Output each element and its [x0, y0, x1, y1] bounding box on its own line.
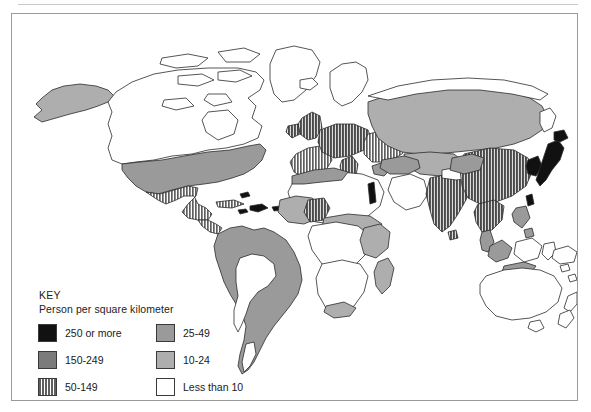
legend-item: 25-49	[156, 324, 243, 342]
region-ireland	[286, 124, 300, 138]
page-canvas: KEY Person per square kilometer 250 or m…	[0, 0, 591, 412]
region-arabia	[388, 174, 428, 210]
legend-columns: 250 or more 150-249 50-149	[38, 324, 256, 396]
region-iceland	[300, 78, 318, 90]
legend-label: 25-49	[183, 327, 210, 339]
legend-item: 150-249	[38, 351, 142, 369]
region-cuba	[216, 200, 244, 208]
legend-item: 250 or more	[38, 324, 142, 342]
region-scandinavia	[330, 62, 368, 106]
legend-swatch-250-or-more	[38, 324, 57, 342]
legend-swatch-150-249	[38, 351, 57, 369]
region-indochina	[474, 200, 504, 232]
region-philippines	[524, 228, 534, 238]
legend-label: 10-24	[183, 354, 210, 366]
legend-label: 150-249	[65, 354, 104, 366]
legend-item: 50-149	[38, 378, 142, 396]
region-philippines	[512, 206, 530, 228]
region-alaska	[34, 84, 114, 122]
legend-column-right: 25-49 10-24 Less than 10	[156, 324, 243, 396]
region-arctic-islands	[218, 48, 260, 62]
region-east-africa	[360, 224, 390, 258]
region-new-zealand	[558, 310, 574, 328]
legend-subtitle: Person per square kilometer	[39, 303, 256, 315]
region-taiwan	[526, 194, 534, 206]
region-pacific-islands	[568, 274, 577, 282]
region-borneo	[514, 238, 542, 262]
map-stage: KEY Person per square kilometer 250 or m…	[12, 14, 577, 400]
region-bahamas	[240, 192, 250, 198]
region-australia	[480, 268, 562, 320]
region-madagascar	[374, 258, 394, 294]
legend-label: 50-149	[65, 381, 98, 393]
region-new-zealand	[564, 292, 577, 312]
region-new-guinea	[552, 246, 577, 264]
legend-column-left: 250 or more 150-249 50-149	[38, 324, 142, 396]
region-central-america	[198, 220, 222, 234]
region-jamaica	[238, 209, 248, 214]
map-figure-frame: KEY Person per square kilometer 250 or m…	[11, 13, 578, 401]
region-tasmania	[528, 320, 544, 332]
legend-item: Less than 10	[156, 378, 243, 396]
region-sri-lanka	[448, 230, 458, 240]
region-hispaniola	[250, 204, 268, 212]
page-top-rule	[18, 4, 578, 5]
legend-swatch-10-24	[156, 351, 175, 369]
region-british-isles	[298, 112, 322, 140]
region-pacific-islands	[560, 264, 570, 272]
region-kamchatka	[540, 108, 556, 132]
legend-swatch-50-149	[38, 378, 57, 396]
legend-swatch-less-than-10	[156, 378, 175, 396]
region-hokkaido	[554, 130, 568, 142]
legend-label: Less than 10	[183, 381, 243, 393]
legend-item: 10-24	[156, 351, 243, 369]
legend-label: 250 or more	[65, 327, 122, 339]
region-greenland	[270, 46, 320, 102]
region-arctic-islands	[160, 54, 208, 68]
legend-swatch-25-49	[156, 324, 175, 342]
legend-title: KEY	[39, 289, 256, 301]
map-legend: KEY Person per square kilometer 250 or m…	[38, 289, 256, 396]
